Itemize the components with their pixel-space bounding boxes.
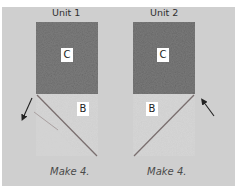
unit-2-block	[133, 22, 214, 156]
unit-1-label-c: C	[61, 48, 73, 62]
unit-2-label-c: C	[157, 48, 169, 62]
unit-2-caption: Make 4.	[147, 166, 186, 177]
unit-2-arrow-icon	[203, 101, 214, 116]
unit-1-title: Unit 1	[52, 7, 80, 18]
diagram-artwork	[0, 0, 247, 194]
unit-1-caption: Make 4.	[50, 166, 89, 177]
unit-1-label-b: B	[77, 102, 89, 116]
unit-2-label-b: B	[146, 102, 158, 116]
unit-1-block	[23, 22, 98, 156]
unit-1-arrow-icon	[23, 98, 32, 118]
unit-2-title: Unit 2	[150, 7, 178, 18]
